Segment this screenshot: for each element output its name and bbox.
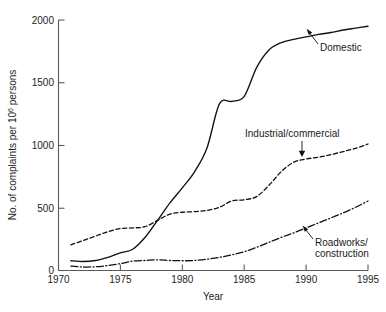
x-tick-label-1985: 1985 (233, 274, 256, 285)
y-axis-title-text: No. of complaints per 106 persons (7, 70, 19, 221)
roadworks-arrow-icon (303, 225, 309, 231)
industrial-arrow-icon (299, 151, 305, 157)
y-tick-label-1000: 1000 (32, 140, 55, 151)
x-tick-label-1975: 1975 (109, 274, 132, 285)
x-tick-label-1980: 1980 (171, 274, 194, 285)
y-axis-ticks (59, 20, 65, 271)
annotation-label-industrial: Industrial/commercial (245, 128, 339, 139)
x-tick-label-1970: 1970 (47, 274, 70, 285)
chart-container: 2000 1500 1000 500 0 1970 1975 1980 1985… (0, 0, 386, 312)
y-axis-tick-labels: 2000 1500 1000 500 0 (32, 15, 55, 277)
line-chart: 2000 1500 1000 500 0 1970 1975 1980 1985… (0, 0, 386, 312)
x-tick-label-1990: 1990 (295, 274, 318, 285)
y-axis-title-prefix: No. of complaints per 10 (7, 112, 18, 221)
annotation-label-domestic: Domestic (320, 42, 362, 53)
x-axis-title: Year (203, 291, 224, 302)
annotation-label-roadworks-line2: construction (315, 248, 369, 259)
series-line-industrial (71, 144, 368, 245)
x-axis-ticks (59, 265, 369, 271)
x-axis-tick-labels: 1970 1975 1980 1985 1990 1995 (47, 274, 379, 285)
x-tick-label-1995: 1995 (357, 274, 380, 285)
annotation-roadworks: Roadworks/ construction (303, 225, 369, 259)
annotation-industrial: Industrial/commercial (245, 128, 339, 157)
y-axis-title: No. of complaints per 106 persons (7, 70, 19, 221)
series-line-domestic (71, 26, 368, 261)
y-tick-label-2000: 2000 (32, 15, 55, 26)
y-axis-title-suffix: persons (7, 70, 18, 108)
domestic-arrow-icon (307, 29, 313, 35)
y-tick-label-1500: 1500 (32, 77, 55, 88)
annotation-label-roadworks-line1: Roadworks/ (315, 237, 368, 248)
series-group (71, 26, 368, 267)
y-tick-label-500: 500 (37, 203, 54, 214)
